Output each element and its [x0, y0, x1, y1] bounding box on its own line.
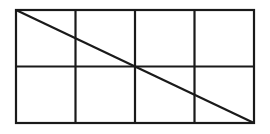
grid-diagram — [0, 0, 270, 134]
